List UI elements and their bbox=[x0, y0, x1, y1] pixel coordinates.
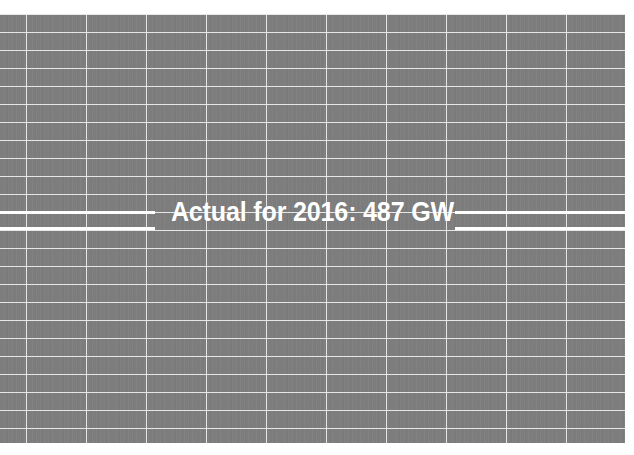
gridline-horizontal bbox=[0, 320, 625, 321]
plot-texture bbox=[0, 14, 625, 443]
gridline-horizontal bbox=[0, 338, 625, 339]
gridline-vertical bbox=[266, 14, 267, 443]
gridline-vertical bbox=[506, 14, 507, 443]
gridline-horizontal bbox=[0, 194, 625, 195]
gridline-horizontal bbox=[0, 176, 625, 177]
gridline-horizontal bbox=[0, 86, 625, 87]
gridline-horizontal bbox=[0, 50, 625, 51]
gridline-horizontal bbox=[0, 302, 625, 303]
gridline-horizontal bbox=[0, 248, 625, 249]
chart-root: Actual for 2016: 487 GW bbox=[0, 0, 634, 455]
gridline-horizontal bbox=[0, 68, 625, 69]
gridline-horizontal bbox=[0, 428, 625, 429]
gridline-horizontal bbox=[0, 284, 625, 285]
gridline-vertical bbox=[206, 14, 207, 443]
gridline-vertical bbox=[26, 14, 27, 443]
gridline-horizontal bbox=[0, 356, 625, 357]
gridline-vertical bbox=[86, 14, 87, 443]
gridline-horizontal bbox=[0, 266, 625, 267]
gridline-vertical bbox=[446, 14, 447, 443]
gridline-horizontal bbox=[0, 410, 625, 411]
gridline-horizontal bbox=[0, 104, 625, 105]
gridline-horizontal bbox=[0, 32, 625, 33]
gridline-vertical bbox=[566, 14, 567, 443]
gridline-horizontal bbox=[0, 392, 625, 393]
annotation-layer: Actual for 2016: 487 GW bbox=[0, 14, 625, 443]
gridline-horizontal bbox=[0, 230, 625, 231]
gridline-vertical bbox=[326, 14, 327, 443]
gridline-horizontal bbox=[0, 140, 625, 141]
gridline-horizontal bbox=[0, 212, 625, 213]
gridline-horizontal bbox=[0, 14, 625, 15]
gridline-vertical bbox=[386, 14, 387, 443]
plot-area: Actual for 2016: 487 GW bbox=[0, 14, 625, 443]
gridline-vertical bbox=[146, 14, 147, 443]
gridline-horizontal bbox=[0, 374, 625, 375]
gridline-horizontal bbox=[0, 158, 625, 159]
gridline-horizontal bbox=[0, 122, 625, 123]
